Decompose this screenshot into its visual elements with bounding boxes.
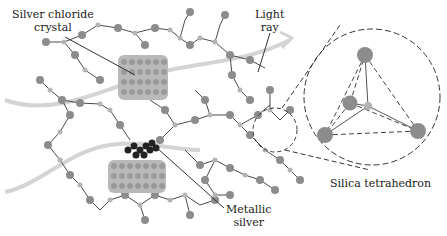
label-silver-chloride-crystal: Silver chloride crystal: [12, 8, 94, 34]
label-metallic-silver: Metallic silver: [226, 203, 271, 229]
label-silica-tetrahedron: Silica tetrahedron: [330, 177, 431, 190]
diagram-graphic: [0, 0, 447, 236]
silica-tetrahedron-graphic: [317, 47, 426, 143]
silver-chloride-crystal-lower: [108, 160, 166, 193]
label-line-1: Metallic: [226, 203, 271, 216]
label-line-1: Light: [255, 8, 284, 21]
label-line-2: crystal: [12, 21, 94, 34]
silver-chloride-crystal-upper: [118, 55, 168, 100]
photochromic-glass-diagram: Silver chloride crystal Light ray Metall…: [0, 0, 447, 236]
label-line-1: Silver chloride: [12, 8, 94, 21]
light-ray-lower: [5, 144, 200, 192]
label-line-2: ray: [255, 21, 284, 34]
oxygen-atoms: [36, 8, 304, 224]
label-light-ray: Light ray: [255, 8, 284, 34]
label-line-2: silver: [226, 216, 271, 229]
magnify-circle-large: [304, 29, 440, 165]
connector-bottom: [285, 150, 370, 170]
